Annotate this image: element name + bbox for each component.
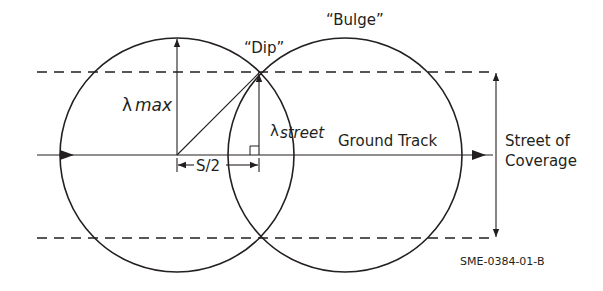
bulge-label: “Bulge” xyxy=(326,11,384,29)
radius-to-dip-line xyxy=(177,73,259,155)
ground-track-arrow-right xyxy=(472,150,486,160)
half-spacing-label: S/2 xyxy=(196,157,220,175)
lambda-max-label: λmax xyxy=(122,95,173,115)
street-of-coverage-label-line1: Street of xyxy=(505,132,571,150)
ground-track-label: Ground Track xyxy=(338,132,438,150)
figure-id-label: SME-0384-01-B xyxy=(460,255,544,268)
ground-track-arrow-left xyxy=(60,150,74,160)
dip-label: “Dip” xyxy=(244,39,284,57)
lambda-street-label: λstreet xyxy=(270,122,325,142)
coverage-diagram: “Dip” “Bulge” λmax λstreet Ground Track … xyxy=(0,0,603,291)
right-angle-marker xyxy=(250,146,259,155)
street-of-coverage-label-line2: Coverage xyxy=(505,152,577,170)
